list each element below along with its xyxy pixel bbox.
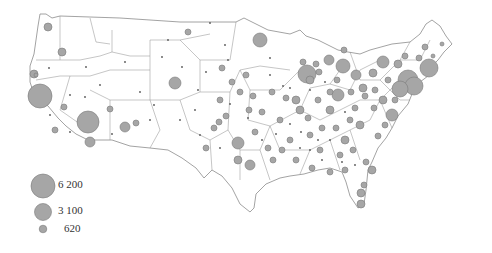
city-circle bbox=[277, 117, 283, 123]
city-circle bbox=[216, 119, 222, 125]
city-circle bbox=[52, 127, 58, 133]
city-dot bbox=[269, 57, 271, 59]
city-circle bbox=[422, 44, 428, 50]
city-dot bbox=[124, 61, 126, 63]
city-circle bbox=[269, 89, 275, 95]
city-circle bbox=[237, 89, 243, 95]
city-dot bbox=[205, 71, 207, 73]
city-dot bbox=[321, 159, 323, 161]
city-dot bbox=[179, 119, 181, 121]
city-circle bbox=[307, 132, 313, 138]
city-dot bbox=[161, 56, 163, 58]
city-circle bbox=[392, 97, 398, 103]
city-circle bbox=[368, 166, 376, 174]
city-circle bbox=[350, 147, 356, 153]
city-dot bbox=[209, 22, 211, 24]
city-circle bbox=[394, 60, 402, 68]
city-dot bbox=[153, 104, 155, 106]
city-circle bbox=[336, 59, 350, 73]
city-circle bbox=[359, 84, 367, 92]
legend-label-medium: 3 100 bbox=[58, 204, 83, 216]
city-dot bbox=[309, 149, 311, 151]
city-dot bbox=[199, 134, 201, 136]
city-circle bbox=[402, 53, 408, 59]
city-circle bbox=[351, 70, 361, 80]
city-circle bbox=[223, 113, 229, 119]
city-circle bbox=[361, 182, 367, 188]
city-circle bbox=[107, 106, 113, 112]
city-dot bbox=[324, 81, 326, 83]
city-circle bbox=[265, 145, 271, 151]
city-circle bbox=[120, 122, 130, 132]
city-dot bbox=[69, 131, 71, 133]
city-circle bbox=[243, 72, 249, 78]
city-circle bbox=[169, 77, 181, 89]
city-circle bbox=[229, 79, 235, 85]
city-circle bbox=[234, 156, 242, 164]
city-circle bbox=[305, 115, 311, 121]
city-dot bbox=[219, 147, 221, 149]
city-dot bbox=[49, 114, 51, 116]
city-dot bbox=[309, 89, 311, 91]
city-circle bbox=[337, 152, 343, 158]
city-dot bbox=[149, 119, 151, 121]
city-dot bbox=[69, 94, 71, 96]
city-circle bbox=[77, 111, 99, 133]
city-circle bbox=[309, 165, 315, 171]
city-circle bbox=[392, 81, 408, 97]
city-dot bbox=[227, 59, 229, 61]
city-circle bbox=[333, 125, 339, 131]
city-circle bbox=[85, 137, 95, 147]
city-circle bbox=[385, 77, 391, 83]
city-circle bbox=[279, 147, 285, 153]
city-circle bbox=[420, 59, 438, 77]
city-circle bbox=[369, 69, 377, 77]
city-circle bbox=[316, 69, 322, 75]
city-circle bbox=[253, 33, 267, 47]
city-dot bbox=[139, 91, 141, 93]
city-circle bbox=[28, 84, 52, 108]
city-circle bbox=[356, 121, 364, 129]
city-dot bbox=[197, 89, 199, 91]
city-dot bbox=[354, 164, 356, 166]
legend-circle bbox=[39, 225, 47, 233]
legend-circle bbox=[35, 204, 52, 221]
city-circle bbox=[203, 145, 209, 151]
city-circle bbox=[246, 107, 252, 113]
city-dot bbox=[269, 74, 271, 76]
legend-circle bbox=[31, 174, 55, 198]
city-circle bbox=[319, 125, 325, 131]
city-circle bbox=[334, 77, 340, 83]
city-dot bbox=[194, 109, 196, 111]
city-circle bbox=[211, 125, 217, 131]
city-circle bbox=[245, 160, 255, 170]
city-circle bbox=[347, 117, 353, 123]
city-circle bbox=[300, 59, 306, 65]
city-circle bbox=[357, 189, 365, 197]
city-circle bbox=[217, 97, 223, 103]
city-circle bbox=[327, 89, 333, 95]
city-circle bbox=[58, 48, 66, 56]
city-circle bbox=[306, 76, 314, 84]
city-dot bbox=[181, 66, 183, 68]
city-circle bbox=[252, 129, 258, 135]
legend-circles bbox=[31, 174, 55, 233]
city-circle bbox=[352, 105, 358, 111]
city-circle bbox=[61, 104, 67, 110]
city-circle bbox=[372, 87, 378, 93]
city-dot bbox=[48, 67, 50, 69]
city-circle bbox=[292, 96, 300, 104]
city-circle bbox=[327, 169, 333, 175]
city-circle bbox=[379, 96, 387, 104]
city-circle bbox=[293, 157, 299, 163]
city-dot bbox=[167, 39, 169, 41]
city-circle bbox=[315, 97, 321, 103]
city-dot bbox=[85, 66, 87, 68]
city-circle bbox=[386, 109, 398, 121]
city-dot bbox=[275, 133, 277, 135]
city-circle bbox=[377, 56, 389, 68]
city-circle bbox=[317, 147, 323, 153]
city-circle bbox=[362, 93, 368, 99]
city-dot bbox=[99, 84, 101, 86]
city-circle bbox=[185, 29, 191, 35]
